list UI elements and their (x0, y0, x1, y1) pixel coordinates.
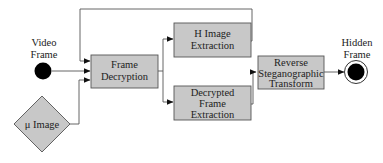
decrypted-frame-line3: Extraction (191, 109, 235, 120)
end-circle-inner-icon (348, 64, 365, 81)
hidden-frame-label-line1: Hidden (342, 37, 374, 48)
video-frame-label-line1: Video (31, 37, 56, 48)
decrypted-frame-extraction-box: Decrypted Frame Extraction (174, 86, 251, 120)
flowchart-canvas: Video Frame μ Image Frame Decryption H I… (0, 0, 383, 163)
frame-decryption-line1: Frame (111, 59, 138, 70)
video-frame-node: Video Frame (31, 37, 58, 80)
start-circle-icon (35, 63, 52, 80)
h-image-extraction-box: H Image Extraction (174, 23, 251, 57)
decrypted-frame-line2: Frame (199, 98, 226, 109)
mu-image-label: μ Image (25, 119, 60, 130)
edge-decryption-to-h-image (158, 39, 173, 71)
mu-image-node: μ Image (14, 96, 70, 152)
frame-decryption-line2: Decryption (101, 71, 149, 82)
h-image-extraction-line2: Extraction (191, 40, 235, 51)
frame-decryption-box: Frame Decryption (91, 55, 158, 88)
decrypted-frame-line1: Decrypted (191, 87, 235, 98)
video-frame-label-line2: Frame (31, 49, 58, 60)
hidden-frame-label-line2: Frame (344, 49, 371, 60)
edge-decryption-to-decrypted-frame (163, 71, 173, 102)
h-image-extraction-line1: H Image (194, 28, 231, 39)
hidden-frame-node: Hidden Frame (342, 37, 374, 84)
reverse-steganographic-transform-box: Reverse Steganographic Transform (258, 56, 324, 89)
reverse-transform-line3: Transform (269, 78, 313, 89)
edge-mu-to-decryption (70, 80, 90, 124)
reverse-transform-line2: Steganographic (258, 68, 324, 79)
reverse-transform-line1: Reverse (274, 57, 308, 68)
